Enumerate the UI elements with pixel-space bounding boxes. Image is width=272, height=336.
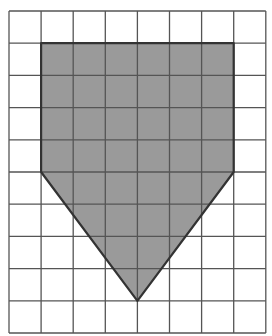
grid-diagram [0, 0, 272, 336]
